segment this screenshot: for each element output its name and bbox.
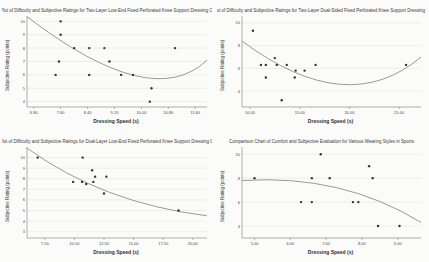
plot-area: 468105.006.007.008.009.00: [228, 144, 426, 249]
y-tick-label: 4: [23, 99, 26, 104]
y-axis-label: Subjective Rating (points): [2, 13, 13, 118]
scatter-point: [286, 64, 288, 66]
chart-top-left: Scatter Plot of Difficulty and Subjectiv…: [0, 0, 215, 131]
x-tick-label: 7.00: [322, 241, 331, 246]
scatter-point: [314, 64, 316, 66]
scatter-point: [58, 60, 60, 62]
y-tick-label: 9: [23, 166, 26, 171]
x-tick-label: 9.00: [394, 241, 403, 246]
x-tick-label: 15.00: [129, 241, 140, 246]
scatter-point: [303, 69, 305, 71]
y-tick-label: 4: [238, 89, 241, 94]
scatter-point: [357, 201, 359, 203]
plot-area: 456789106.807.608.409.2010.0010.8011.60: [13, 13, 212, 118]
scatter-point: [311, 201, 313, 203]
scatter-point: [73, 47, 75, 49]
scatter-point: [398, 225, 400, 227]
x-tick-label: 12.50: [99, 241, 110, 246]
scatter-point: [265, 64, 267, 66]
plot-canvas: 4681010.0015.0020.0025.00: [228, 13, 426, 118]
y-axis-label: Subjective Rating (points): [2, 144, 13, 249]
scatter-point: [85, 183, 87, 185]
y-axis-label: Subjective Rating (points): [217, 144, 228, 249]
scatter-point: [88, 74, 90, 76]
y-axis-label: Subjective Rating (points): [217, 13, 228, 118]
scatter-point: [276, 64, 278, 66]
x-tick-label: 8.00: [358, 241, 367, 246]
scatter-point: [59, 34, 61, 36]
scatter-point: [329, 177, 331, 179]
scatter-point: [103, 47, 105, 49]
scatter-point: [311, 177, 313, 179]
y-tick-label: 8: [238, 43, 241, 48]
scatter-point: [253, 177, 255, 179]
x-tick-label: 10.00: [136, 110, 147, 115]
x-tick-label: 7.50: [41, 241, 50, 246]
scatter-point: [94, 175, 96, 177]
x-tick-label: 15.00: [295, 110, 306, 115]
plot-canvas: 456789106.807.608.409.2010.0010.8011.60: [13, 13, 212, 118]
chart-bottom-left: Scatter Plot of Difficulty and Subjectiv…: [0, 131, 215, 262]
chart-title: Comparison Chart of Comfort and Subjecti…: [217, 133, 426, 144]
scatter-point: [72, 181, 74, 183]
x-tick-label: 17.50: [158, 241, 169, 246]
y-tick-label: 10: [21, 19, 26, 24]
scatter-point: [36, 156, 38, 158]
y-tick-label: 3: [23, 229, 26, 234]
trend-curve: [242, 41, 421, 85]
x-tick-label: 20.00: [344, 110, 355, 115]
y-tick-label: 10: [21, 155, 26, 160]
plot-area: 4681010.0015.0020.0025.00: [228, 13, 426, 118]
scatter-point: [265, 76, 267, 78]
y-tick-label: 10: [236, 20, 241, 25]
x-tick-label: 25.00: [394, 110, 405, 115]
x-tick-label: 10.00: [69, 241, 80, 246]
x-tick-label: 10.80: [163, 110, 174, 115]
scatter-point: [177, 209, 179, 211]
scatter-point: [105, 175, 107, 177]
x-tick-label: 7.60: [57, 110, 66, 115]
scatter-point: [120, 74, 122, 76]
scatter-point: [174, 47, 176, 49]
trend-curve: [242, 180, 421, 223]
scatter-point: [260, 64, 262, 66]
x-axis-label: Dressing Speed (s): [217, 118, 426, 130]
x-tick-label: 6.00: [286, 241, 295, 246]
x-tick-label: 20.00: [188, 241, 199, 246]
y-tick-label: 5: [23, 86, 26, 91]
chart-title: Scatter Plot of Difficulty and Subjectiv…: [2, 2, 212, 13]
x-tick-label: 8.40: [84, 110, 93, 115]
x-axis-label: Dressing Speed (s): [2, 249, 212, 261]
scatter-point: [59, 20, 61, 22]
scatter-point: [108, 60, 110, 62]
scatter-point: [92, 181, 94, 183]
chart-title: Scatter Plot of Difficulty and Subjectiv…: [217, 2, 426, 13]
y-tick-label: 4: [23, 219, 26, 224]
y-tick-label: 8: [238, 176, 241, 181]
x-tick-label: 11.60: [190, 110, 200, 115]
scatter-point: [295, 69, 297, 71]
y-tick-label: 6: [23, 72, 26, 77]
trend-curve: [27, 17, 207, 79]
scatter-point: [88, 47, 90, 49]
scatter-point: [300, 201, 302, 203]
scatter-point: [81, 181, 83, 183]
chart-title: Scatter Plot of Difficulty and Subjectiv…: [2, 133, 212, 144]
scatter-point: [371, 177, 373, 179]
y-tick-label: 4: [238, 224, 241, 229]
scatter-point: [252, 30, 254, 32]
x-tick-label: 10.00: [245, 110, 256, 115]
scatter-point: [377, 225, 379, 227]
trend-curve: [27, 148, 207, 216]
y-tick-label: 7: [23, 59, 26, 64]
x-tick-label: 6.80: [30, 110, 39, 115]
x-axis-label: Dressing Speed (s): [2, 118, 212, 130]
scatter-point: [150, 87, 152, 89]
scatter-plot-grid: Scatter Plot of Difficulty and Subjectiv…: [0, 0, 429, 262]
scatter-point: [320, 153, 322, 155]
scatter-point: [281, 99, 283, 101]
plot-canvas: 3456789107.5010.0012.5015.0017.5020.00: [13, 144, 212, 249]
scatter-point: [54, 74, 56, 76]
plot-area: 3456789107.5010.0012.5015.0017.5020.00: [13, 144, 212, 249]
y-tick-label: 6: [23, 197, 26, 202]
